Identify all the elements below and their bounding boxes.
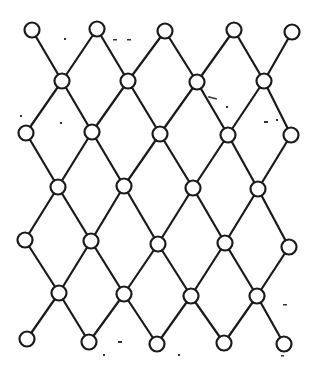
edge-line <box>165 31 197 82</box>
edge-line <box>258 189 289 247</box>
edge-line <box>160 134 193 188</box>
edge-line <box>91 241 124 294</box>
edge-line <box>58 187 91 241</box>
node-circle-r2c4 <box>257 74 272 89</box>
node-circle-r2c3 <box>190 75 205 90</box>
node-circle-r4c2 <box>117 179 132 194</box>
edge-line <box>128 81 160 134</box>
edge-line <box>191 296 224 343</box>
node-circle-r3c2 <box>85 125 100 140</box>
edge-line <box>124 134 160 186</box>
edge-line <box>62 81 92 132</box>
edge-line <box>228 81 264 135</box>
edge-line <box>91 186 124 241</box>
edge-line <box>92 132 124 186</box>
edge-line <box>124 244 158 294</box>
node-circle-r4c4 <box>251 182 266 197</box>
node-circle-r2c1 <box>55 74 70 89</box>
lattice-svg <box>0 0 318 372</box>
node-circle-r7c3 <box>150 337 165 352</box>
node-circle-r7c2 <box>82 335 97 350</box>
edge-line <box>157 296 191 344</box>
node-circle-r6c1 <box>52 286 67 301</box>
edge-line <box>193 188 225 243</box>
node-circle-r3c3 <box>153 127 168 142</box>
node-circle-r7c5 <box>277 337 292 352</box>
node-circle-r7c1 <box>20 332 35 347</box>
edge-line <box>197 30 234 82</box>
edge-line <box>62 29 97 81</box>
edge-line <box>158 244 191 296</box>
edge-line <box>26 133 58 187</box>
node-circle-r1c4 <box>227 23 242 38</box>
node-circle-r5c1 <box>18 233 33 248</box>
node-circle-r5c2 <box>84 234 99 249</box>
edge-line <box>124 186 158 244</box>
edge-line <box>97 29 128 81</box>
edge-line <box>59 241 91 293</box>
node-circle-r5c4 <box>218 236 233 251</box>
node-circle-r6c3 <box>184 289 199 304</box>
node-circle-r6c2 <box>117 287 132 302</box>
edge-line <box>258 135 291 189</box>
node-circle-r1c5 <box>285 25 300 40</box>
node-circle-r7c4 <box>217 336 232 351</box>
edge-line <box>197 82 228 135</box>
edge-line <box>89 294 124 342</box>
edge-line <box>58 132 92 187</box>
node-circle-r1c2 <box>90 22 105 37</box>
edge-line <box>191 243 225 296</box>
lattice-diagram <box>0 0 318 372</box>
edge-line <box>124 294 157 344</box>
edge-line <box>25 187 58 240</box>
node-circle-r1c1 <box>25 23 40 38</box>
node-circle-r3c1 <box>19 126 34 141</box>
edge-line <box>160 82 197 134</box>
node-circle-r3c5 <box>284 128 299 143</box>
edge-line <box>225 243 257 296</box>
edge-line <box>59 293 89 342</box>
edge-line <box>234 30 264 81</box>
node-circle-r3c4 <box>221 128 236 143</box>
edge-line <box>32 30 62 81</box>
edge-line <box>158 188 193 244</box>
node-circle-r1c3 <box>158 24 173 39</box>
edge-line <box>264 81 291 135</box>
edge-line <box>257 247 289 296</box>
edge-line <box>225 189 258 243</box>
node-circle-r4c3 <box>186 181 201 196</box>
edge-line <box>224 296 257 343</box>
edge-line <box>228 135 258 189</box>
node-circle-r6c4 <box>250 289 265 304</box>
edge-line <box>26 81 62 133</box>
node-circle-r5c3 <box>151 237 166 252</box>
edge-line <box>92 81 128 132</box>
node-circle-r5c5 <box>282 240 297 255</box>
node-circle-r2c2 <box>121 74 136 89</box>
edge-line <box>128 31 165 81</box>
edge-line <box>193 135 228 188</box>
node-circle-r4c1 <box>51 180 66 195</box>
edge-line <box>25 240 59 293</box>
